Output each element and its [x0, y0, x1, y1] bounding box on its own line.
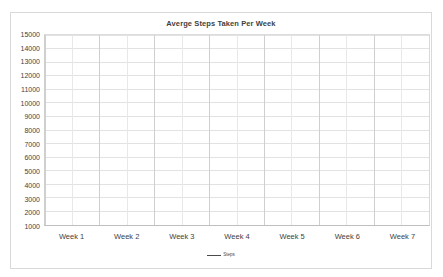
- x-tick-label: Week 2: [99, 229, 154, 245]
- y-tick-label: 4000: [24, 181, 40, 188]
- data-series-layer: [45, 35, 429, 225]
- y-tick-label: 14000: [21, 44, 40, 51]
- y-tick-label: 10000: [21, 99, 40, 106]
- y-tick-label: 9000: [24, 113, 40, 120]
- y-tick-label: 5000: [24, 168, 40, 175]
- x-tick-label: Week 7: [375, 229, 430, 245]
- x-tick-label: Week 6: [320, 229, 375, 245]
- plot-wrap: [44, 34, 430, 226]
- chart-title[interactable]: Averge Steps Taken Per Week: [11, 19, 431, 28]
- y-tick-label: 1000: [24, 223, 40, 230]
- x-tick-label: Week 3: [154, 229, 209, 245]
- y-tick-label: 6000: [24, 154, 40, 161]
- legend-label: Steps: [223, 253, 235, 258]
- legend-line-icon: [207, 255, 221, 256]
- x-tick-label: Week 5: [265, 229, 320, 245]
- y-tick-label: 11000: [21, 85, 40, 92]
- y-tick-label: 13000: [21, 58, 40, 65]
- legend-entry[interactable]: Steps: [207, 253, 235, 258]
- y-tick-label: 8000: [24, 127, 40, 134]
- y-tick-label: 3000: [24, 195, 40, 202]
- x-tick-label: Week 4: [209, 229, 264, 245]
- chart-legend[interactable]: Steps: [11, 249, 431, 261]
- y-tick-label: 12000: [21, 72, 40, 79]
- y-axis[interactable]: 1500014000130001200011000100009000800070…: [11, 34, 42, 226]
- y-tick-label: 2000: [24, 209, 40, 216]
- x-axis[interactable]: Week 1Week 2Week 3Week 4Week 5Week 6Week…: [44, 229, 430, 245]
- x-tick-label: Week 1: [44, 229, 99, 245]
- y-tick-label: 7000: [24, 140, 40, 147]
- plot-area[interactable]: [44, 34, 430, 226]
- chart-frame[interactable]: Averge Steps Taken Per Week 150001400013…: [10, 12, 432, 269]
- y-tick-label: 15000: [21, 31, 40, 38]
